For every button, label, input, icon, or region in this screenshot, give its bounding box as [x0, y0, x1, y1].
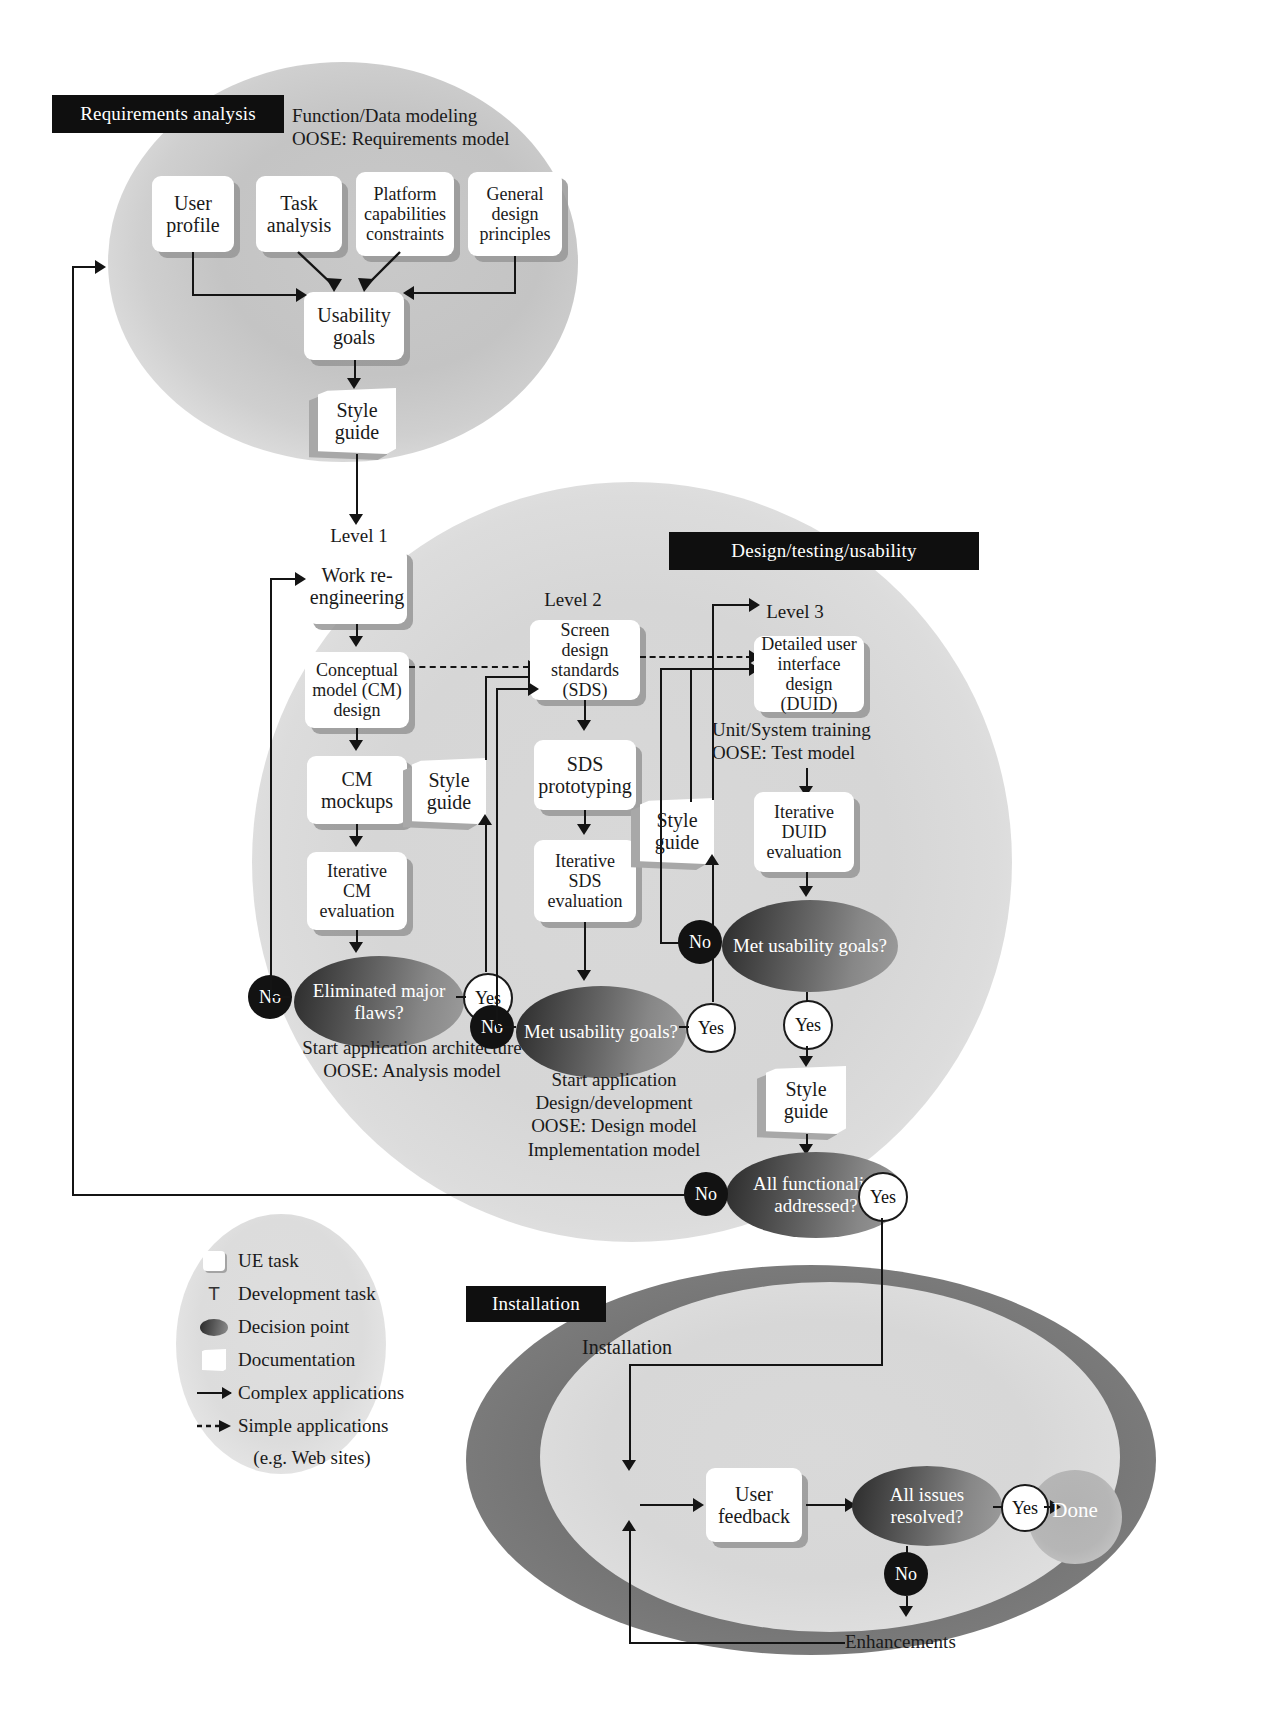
diagram-canvas: Requirements analysis Function/Data mode…	[0, 0, 1269, 1714]
arrowhead-general	[403, 286, 414, 300]
decision-point-icon	[196, 1319, 232, 1336]
connector-yes2-stub	[679, 1026, 689, 1028]
legend-label: Complex applications	[238, 1382, 404, 1404]
box-task-analysis: Task analysis	[256, 176, 342, 252]
no-token-final: No	[684, 1172, 728, 1216]
connector-userprofile-down	[192, 252, 194, 296]
doc-label: Style guide	[766, 1078, 846, 1123]
arrowhead-no1	[295, 572, 306, 586]
connector-enh-up	[629, 1530, 631, 1644]
box-sds-prototyping: SDS prototyping	[534, 740, 636, 810]
doc-style-guide-level3: Style guide	[766, 1066, 846, 1134]
connector-sg1-up	[485, 676, 487, 760]
connector-yes1-stub	[456, 996, 466, 998]
arrowhead-yesfinal	[622, 1460, 636, 1471]
label-enhancements: Enhancements	[845, 1630, 956, 1653]
connector-no1-to-box	[270, 578, 296, 580]
box-iterative-cm-evaluation: Iterative CM evaluation	[307, 852, 407, 930]
legend-item-decision-point: Decision point	[196, 1316, 349, 1338]
connector-general-down	[514, 256, 516, 294]
box-platform-capabilities: Platform capabilities constraints	[356, 172, 454, 256]
connector-yesinst-stub	[993, 1506, 1003, 1508]
connector-feedback-to-decision	[806, 1504, 848, 1506]
development-task-icon: T	[196, 1283, 232, 1305]
label-level-1: Level 1	[304, 524, 414, 547]
dashed-connector-cm-sds	[409, 666, 529, 668]
dashed-arrow-glyph	[197, 1420, 231, 1432]
legend-item-simple-applications: Simple applications	[196, 1415, 388, 1437]
box-usability-goals: Usability goals	[304, 292, 404, 360]
connector-l3-a	[806, 768, 808, 788]
connector-yesfinal-intodown	[629, 1364, 631, 1464]
connector-l2-a	[584, 700, 586, 722]
doc-style-guide-level1: Style guide	[412, 758, 486, 824]
doc-label: Style guide	[640, 809, 714, 854]
legend-item-documentation: Documentation	[196, 1349, 355, 1371]
box-user-feedback: User feedback	[706, 1468, 802, 1542]
connector-no3-up	[660, 668, 662, 944]
connector-nofinal-up	[72, 266, 74, 1196]
arrowhead-no2	[528, 682, 539, 696]
legend-label: Documentation	[238, 1349, 355, 1371]
box-user-profile: User profile	[152, 176, 234, 252]
box-iterative-duid-evaluation: Iterative DUID evaluation	[754, 792, 854, 872]
connector-general-left	[414, 292, 516, 294]
arrowhead-nofinal	[95, 260, 106, 274]
yes-token-level3: Yes	[783, 1000, 833, 1050]
legend-footnote: (e.g. Web sites)	[212, 1446, 412, 1469]
legend-label: Decision point	[238, 1316, 349, 1338]
connector-sg2-b-right	[690, 668, 752, 670]
legend-item-ue-task: UE task	[196, 1250, 299, 1272]
box-screen-design-standards: Screen design standards (SDS)	[530, 620, 640, 700]
label-level-2: Level 2	[518, 588, 628, 611]
legend-item-development-task: T Development task	[196, 1283, 376, 1305]
connector-no1-up	[270, 578, 272, 998]
arrowhead-l1-d	[349, 942, 363, 953]
arrowhead-yes2-up	[705, 854, 719, 865]
connector-sg2-up	[712, 604, 714, 800]
yes-token-level2: Yes	[686, 1003, 736, 1053]
connector-enh-left	[629, 1642, 845, 1644]
yes-token-final: Yes	[858, 1172, 908, 1222]
decision-all-issues-resolved: All issues resolved?	[852, 1466, 1002, 1546]
arrowhead-inst-to-feedback	[693, 1498, 704, 1512]
connector-yesfinal-down	[881, 1218, 883, 1366]
banner-requirements-analysis: Requirements analysis	[52, 95, 284, 133]
arrowhead-l2-a	[577, 720, 591, 731]
box-iterative-sds-evaluation: Iterative SDS evaluation	[534, 840, 636, 922]
doc-label: Style guide	[412, 769, 486, 814]
dashed-arrow-icon	[196, 1420, 232, 1432]
connector-no3-left	[660, 942, 680, 944]
connector-inst-to-feedback	[640, 1504, 696, 1506]
doc-style-guide-requirements: Style guide	[318, 388, 396, 454]
no-token-installation: No	[884, 1552, 928, 1596]
connector-no2-left	[496, 1026, 516, 1028]
doc-label: Style guide	[318, 399, 396, 444]
dashed-connector-sds-duid	[640, 656, 752, 658]
connector-no1-left	[270, 996, 292, 998]
arrowhead-enh-up	[622, 1520, 636, 1531]
ue-task-icon	[196, 1251, 232, 1271]
arrowhead-l2-b	[577, 824, 591, 835]
legend-label: Development task	[238, 1283, 376, 1305]
banner-installation: Installation	[466, 1286, 606, 1322]
connector-yes3-stub-top	[806, 992, 808, 1002]
no-token-level3: No	[678, 920, 722, 964]
note-level2: Start application Design/development OOS…	[464, 1068, 764, 1161]
connector-nofinal-left	[72, 1194, 688, 1196]
decision-met-usability-goals-level2: Met usability goals?	[516, 986, 686, 1078]
connector-yesfinal-left	[629, 1364, 883, 1366]
doc-style-guide-level2: Style guide	[640, 798, 714, 864]
box-general-design-principles: General design principles	[468, 172, 562, 256]
decision-eliminated-major-flaws: Eliminated major flaws?	[294, 956, 464, 1048]
note-level3-side: Unit/System training OOSE: Test model	[712, 718, 871, 764]
label-level-3: Level 3	[740, 600, 850, 623]
box-work-re-engineering: Work re- engineering	[307, 548, 407, 624]
box-conceptual-model-design: Conceptual model (CM) design	[305, 652, 409, 728]
arrowhead-l1-c	[349, 836, 363, 847]
documentation-icon	[196, 1349, 232, 1371]
connector-no2-right	[496, 688, 530, 690]
connector-sg1-right	[485, 676, 531, 678]
legend-label: UE task	[238, 1250, 299, 1272]
connector-styleguide-level1	[356, 454, 358, 518]
